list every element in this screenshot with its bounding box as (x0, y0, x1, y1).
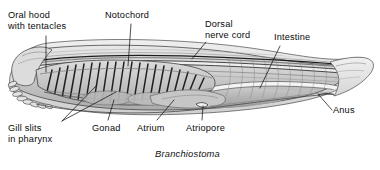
label-notochord: Notochord (105, 10, 149, 21)
label-oral-hood: Oral hood with tentacles (8, 10, 66, 32)
label-atriopore: Atriopore (186, 123, 225, 134)
leader-anus (318, 94, 332, 110)
label-gill-slits: Gill slits in pharynx (8, 123, 52, 145)
lancelet-body (7, 39, 373, 114)
label-dorsal-nerve-cord: Dorsal nerve cord (205, 19, 250, 41)
label-atrium: Atrium (137, 123, 165, 134)
figure-caption: Branchiostoma (155, 148, 220, 159)
label-intestine: Intestine (274, 32, 310, 43)
label-gonad: Gonad (92, 123, 121, 134)
label-anus: Anus (333, 105, 355, 116)
